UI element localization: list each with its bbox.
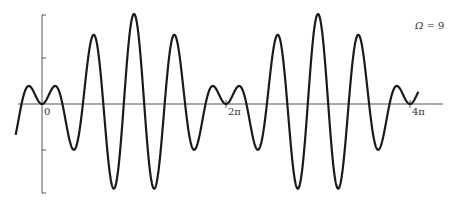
beat-plot xyxy=(0,0,464,200)
omega-annotation: Ω = 9 xyxy=(415,20,444,31)
omega-value: = 9 xyxy=(423,20,444,31)
x-tick-label-2pi: 2π xyxy=(228,107,241,117)
waveform-curve xyxy=(16,14,419,189)
x-tick-label-0: 0 xyxy=(44,107,50,117)
x-tick-label-4pi: 4π xyxy=(412,107,425,117)
